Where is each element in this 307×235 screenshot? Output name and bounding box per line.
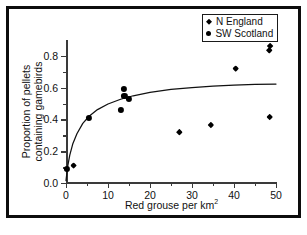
y-axis-tick-label: 0.8 (43, 50, 58, 62)
circle-marker-icon (206, 31, 211, 36)
x-axis-tick (66, 183, 67, 188)
plot-area (66, 40, 276, 183)
legend: N EnglandSW Scotland (202, 14, 278, 42)
x-axis-tick (276, 183, 277, 188)
x-axis-minor-tick (171, 183, 172, 186)
x-axis-tick (108, 183, 109, 188)
legend-item-sw-scotland: SW Scotland (206, 28, 273, 40)
legend-item-label: N England (216, 16, 263, 27)
figure-root: Proportion of pellets containing gamebir… (0, 0, 307, 235)
fitted-curve (66, 40, 276, 183)
x-axis-minor-tick (129, 183, 130, 186)
x-axis-minor-tick (213, 183, 214, 186)
x-axis-minor-tick (87, 183, 88, 186)
y-axis-tick-label: 0.4 (43, 113, 58, 125)
y-axis-tick-label: 0.0 (43, 177, 58, 189)
x-axis-label-exponent: 2 (214, 198, 218, 205)
legend-item-n-england: N England (206, 16, 273, 28)
diamond-marker-icon (206, 19, 212, 25)
y-axis-tick-label: 0.2 (43, 145, 58, 157)
x-axis-tick (150, 183, 151, 188)
x-axis-tick (234, 183, 235, 188)
x-axis-minor-tick (255, 183, 256, 186)
x-axis-tick (192, 183, 193, 188)
y-axis-label-line1: Proportion of pellets (20, 62, 33, 162)
x-axis-label: Red grouse per km2 (66, 198, 277, 211)
legend-item-label: SW Scotland (215, 28, 273, 39)
y-axis-tick-label: 0.6 (43, 82, 58, 94)
